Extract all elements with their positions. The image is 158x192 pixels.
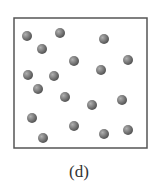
particle bbox=[99, 34, 109, 44]
particle bbox=[99, 129, 109, 139]
particle bbox=[55, 28, 65, 38]
particles-group bbox=[22, 28, 133, 143]
particle bbox=[117, 95, 127, 105]
particle bbox=[37, 44, 47, 54]
particle bbox=[123, 125, 133, 135]
particle bbox=[27, 113, 37, 123]
particle bbox=[22, 31, 32, 41]
particle bbox=[38, 133, 48, 143]
particle bbox=[69, 121, 79, 131]
particle bbox=[33, 84, 43, 94]
particle bbox=[87, 100, 97, 110]
particle bbox=[49, 71, 59, 81]
particle bbox=[60, 92, 70, 102]
particle bbox=[23, 70, 33, 80]
figure-caption: (d) bbox=[0, 162, 158, 182]
particle bbox=[69, 56, 79, 66]
particle bbox=[123, 55, 133, 65]
particle bbox=[96, 65, 106, 75]
